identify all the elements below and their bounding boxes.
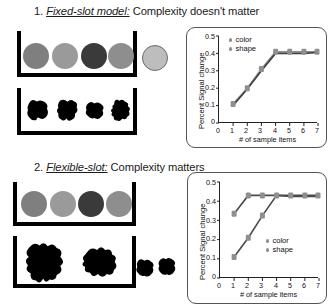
bucket-wall-left bbox=[13, 182, 17, 226]
panel-title-flexible-slot: 2. Flexible-slot: Complexity matters bbox=[34, 161, 205, 173]
x-tick-label: 5 bbox=[284, 281, 296, 290]
circle-item-2 bbox=[50, 191, 76, 217]
panel-title-rest: Complexity matters bbox=[111, 161, 205, 173]
panel-title-fixed-slot: 1. Fixed-slot model: Complexity doesn't … bbox=[34, 5, 259, 17]
x-tick-label: 4 bbox=[270, 281, 282, 290]
x-tick-label: 0 bbox=[213, 281, 225, 290]
legend-label: shape bbox=[272, 246, 293, 254]
x-tick-label: 7 bbox=[312, 281, 324, 290]
y-tick-label: 0.5 bbox=[200, 178, 216, 187]
y-tick-label: 0.1 bbox=[200, 253, 216, 262]
x-tick-label: 6 bbox=[297, 126, 309, 135]
blob-item-1 bbox=[24, 96, 52, 126]
legend-label: color bbox=[272, 237, 288, 245]
blob-item-2 bbox=[54, 95, 81, 126]
y-tick-label: 0.4 bbox=[199, 49, 215, 58]
panel-fixed-slot: 1. Fixed-slot model: Complexity doesn't … bbox=[0, 0, 329, 153]
legend-marker-shape-icon bbox=[229, 47, 232, 50]
y-tick-label: 0.3 bbox=[199, 66, 215, 75]
bucket-wall-left bbox=[17, 31, 21, 77]
y-tick-label: 0.2 bbox=[200, 234, 216, 243]
legend-marker-color-icon bbox=[229, 38, 232, 41]
panel-title-emphasis: Fixed-slot model: bbox=[46, 5, 129, 17]
blob-item-2 bbox=[73, 242, 126, 282]
circle-item-3 bbox=[81, 43, 107, 69]
x-tick-label: 3 bbox=[254, 126, 266, 135]
blob-item-outside-2 bbox=[155, 253, 179, 281]
blob-item-3 bbox=[82, 98, 107, 124]
legend-item-color: color bbox=[266, 237, 293, 245]
legend-label: shape bbox=[235, 45, 256, 53]
panel-title-number: 1. bbox=[34, 5, 43, 17]
x-tick-label: 1 bbox=[226, 126, 238, 135]
legend-label: color bbox=[235, 36, 251, 44]
legend-item-color: color bbox=[229, 36, 256, 44]
bucket-wall-right bbox=[132, 182, 136, 226]
x-tick-label: 3 bbox=[255, 281, 267, 290]
blob-item-1 bbox=[22, 240, 68, 285]
panel-title-number: 2. bbox=[34, 161, 43, 173]
x-tick-label: 6 bbox=[298, 281, 310, 290]
bucket-wall-right bbox=[133, 88, 137, 135]
chart-x-axis-label: # of sample items bbox=[218, 135, 317, 144]
circle-item-1 bbox=[23, 43, 49, 69]
panel-title-rest: Complexity doesn't matter bbox=[133, 5, 259, 17]
circle-item-2 bbox=[52, 43, 78, 69]
chart-flexible-slot: Percent Signal change 0.5 0.4 0.3 0.2 0.… bbox=[187, 172, 327, 304]
circle-item-4 bbox=[108, 43, 134, 69]
panel-title-emphasis: Flexible-slot: bbox=[46, 161, 107, 173]
blob-item-4 bbox=[107, 95, 133, 125]
blob-item-outside-1 bbox=[133, 255, 157, 282]
y-tick-label: 0 bbox=[199, 117, 215, 126]
chart-legend: color shape bbox=[266, 237, 293, 255]
x-tick-label: 2 bbox=[241, 281, 253, 290]
x-tick-label: 1 bbox=[227, 281, 239, 290]
y-tick-label: 0 bbox=[200, 272, 216, 281]
y-tick-label: 0.3 bbox=[200, 216, 216, 225]
bucket-floor bbox=[13, 222, 136, 226]
x-tick-label: 5 bbox=[283, 126, 295, 135]
circle-item-4 bbox=[106, 191, 132, 217]
y-tick-label: 0.4 bbox=[200, 197, 216, 206]
y-tick-label: 0.2 bbox=[199, 83, 215, 92]
bucket-floor bbox=[17, 131, 137, 135]
legend-item-shape: shape bbox=[266, 246, 293, 254]
y-tick-label: 0.5 bbox=[199, 32, 215, 41]
legend-marker-shape-icon bbox=[266, 248, 269, 251]
x-tick-label: 0 bbox=[212, 126, 224, 135]
chart-fixed-slot: Percent Signal change 0.5 0.4 0.3 0.2 0.… bbox=[186, 27, 327, 148]
panel-flexible-slot: 2. Flexible-slot: Complexity matters Per… bbox=[0, 154, 329, 307]
legend-marker-color-icon bbox=[266, 239, 269, 242]
circle-item-1 bbox=[21, 191, 47, 217]
legend-item-shape: shape bbox=[229, 45, 256, 53]
circle-item-3 bbox=[78, 191, 104, 217]
x-tick-label: 7 bbox=[311, 126, 323, 135]
y-tick-label: 0.1 bbox=[199, 100, 215, 109]
x-tick-label: 4 bbox=[269, 126, 281, 135]
circle-item-outside-1 bbox=[142, 45, 168, 71]
chart-legend: color shape bbox=[229, 36, 256, 54]
bucket-wall-left bbox=[17, 88, 21, 135]
x-tick-label: 2 bbox=[240, 126, 252, 135]
chart-x-axis-label: # of sample items bbox=[219, 290, 318, 299]
chart-plot-area bbox=[219, 182, 318, 278]
bucket-wall-left bbox=[13, 236, 17, 288]
bucket-floor bbox=[17, 73, 137, 77]
